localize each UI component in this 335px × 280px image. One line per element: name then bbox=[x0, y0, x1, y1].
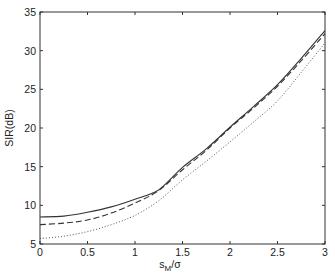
line-chart: 00.511.522.535101520253035 SIR(dB) sM/σ bbox=[0, 0, 335, 280]
x-tick-label: 2 bbox=[227, 246, 233, 258]
y-tick-label: 5 bbox=[30, 238, 36, 250]
y-tick-label: 35 bbox=[24, 6, 36, 18]
plot-area bbox=[40, 12, 325, 244]
x-tick-label: 0.5 bbox=[80, 246, 95, 258]
y-axis-label: SIR(dB) bbox=[3, 109, 15, 146]
x-tick-label: 1 bbox=[132, 246, 138, 258]
y-tick-label: 15 bbox=[24, 161, 36, 173]
x-tick-label: 3 bbox=[322, 246, 328, 258]
x-tick-label: 0 bbox=[37, 246, 43, 258]
x-axis-label: sM/σ bbox=[159, 258, 181, 273]
y-tick-label: 30 bbox=[24, 45, 36, 57]
x-tick-label: 1.5 bbox=[175, 246, 190, 258]
y-tick-label: 20 bbox=[24, 122, 36, 134]
y-tick-label: 25 bbox=[24, 83, 36, 95]
y-tick-label: 10 bbox=[24, 199, 36, 211]
x-tick-label: 2.5 bbox=[270, 246, 285, 258]
